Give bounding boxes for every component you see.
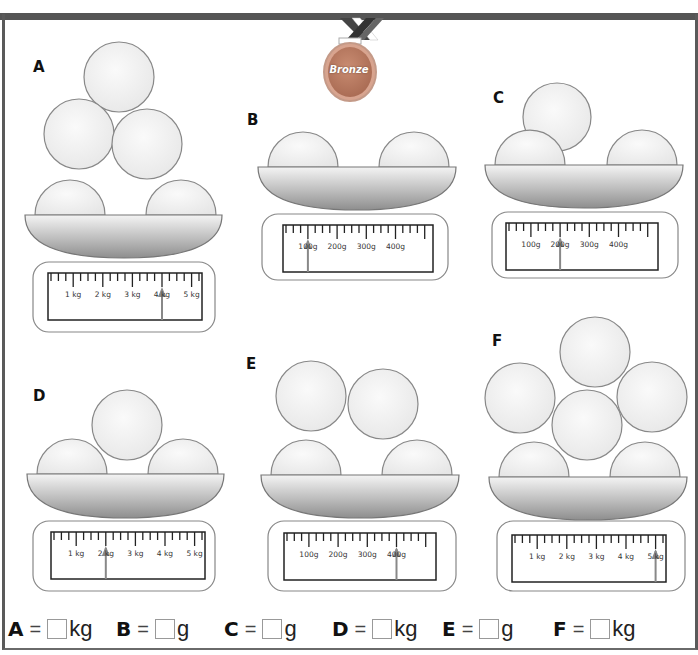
medal-ribbon-icon xyxy=(339,18,384,44)
svg-text:3 kg: 3 kg xyxy=(127,549,143,558)
answer-b: B = g xyxy=(116,616,224,642)
equals-sign: = xyxy=(355,618,367,641)
equals-sign: = xyxy=(245,618,257,641)
svg-text:2 kg: 2 kg xyxy=(95,290,111,299)
answer-d: D = kg xyxy=(332,616,442,642)
answer-f: F = kg xyxy=(553,616,663,642)
answer-e: E = g xyxy=(442,616,553,642)
equals-sign: = xyxy=(462,618,474,641)
panel-c-balls xyxy=(495,83,677,165)
answer-a-label: A xyxy=(8,617,23,641)
equals-sign: = xyxy=(573,618,585,641)
svg-text:1 kg: 1 kg xyxy=(529,552,545,561)
equals-sign: = xyxy=(137,618,149,641)
svg-text:300g: 300g xyxy=(357,242,376,251)
svg-text:300g: 300g xyxy=(580,240,599,249)
panel-a-balls xyxy=(35,42,216,215)
svg-text:100g: 100g xyxy=(521,240,540,249)
answer-f-unit: kg xyxy=(612,616,635,642)
svg-text:5 kg: 5 kg xyxy=(647,552,663,561)
panel-c-bowl xyxy=(485,165,683,208)
panel-d-balls xyxy=(37,390,218,474)
panel-f-balls xyxy=(485,317,687,477)
answer-c-input[interactable] xyxy=(262,619,282,639)
answer-b-unit: g xyxy=(177,616,189,642)
svg-text:200g: 200g xyxy=(329,550,348,559)
badge-label: Bronze xyxy=(324,64,374,75)
panel-b-balls xyxy=(268,132,449,167)
equals-sign: = xyxy=(29,618,41,641)
svg-text:400g: 400g xyxy=(387,550,406,559)
answer-c-label: C xyxy=(224,617,239,641)
panel-f-bowl xyxy=(489,477,687,520)
svg-text:200g: 200g xyxy=(551,240,570,249)
panel-b-label: B xyxy=(247,111,258,129)
answer-e-label: E xyxy=(442,617,456,641)
answer-a: A = kg xyxy=(8,616,116,642)
svg-text:300g: 300g xyxy=(358,550,377,559)
svg-text:4 kg: 4 kg xyxy=(154,290,170,299)
panel-a-bowl xyxy=(25,215,222,258)
svg-text:400g: 400g xyxy=(386,242,405,251)
panel-b-scale xyxy=(262,214,448,280)
svg-text:2 kg: 2 kg xyxy=(559,552,575,561)
svg-text:2 kg: 2 kg xyxy=(98,549,114,558)
answer-e-unit: g xyxy=(501,616,513,642)
answer-row: A = kg B = g C = g D = kg E = g F = kg xyxy=(8,612,688,646)
svg-text:100g: 100g xyxy=(298,242,317,251)
svg-text:1 kg: 1 kg xyxy=(65,290,81,299)
svg-text:400g: 400g xyxy=(609,240,628,249)
svg-text:5 kg: 5 kg xyxy=(186,549,202,558)
answer-e-input[interactable] xyxy=(479,619,499,639)
answer-f-label: F xyxy=(553,617,567,641)
svg-text:1 kg: 1 kg xyxy=(68,549,84,558)
panel-a-label: A xyxy=(33,58,45,76)
panel-b-bowl xyxy=(258,167,456,210)
answer-c-unit: g xyxy=(284,616,296,642)
answer-a-input[interactable] xyxy=(47,619,67,639)
panel-d-label: D xyxy=(33,387,45,405)
panel-e-label: E xyxy=(246,355,256,373)
panel-e-balls xyxy=(271,361,452,475)
answer-d-unit: kg xyxy=(394,616,417,642)
answer-a-unit: kg xyxy=(69,616,92,642)
answer-d-label: D xyxy=(332,617,349,641)
svg-text:5 kg: 5 kg xyxy=(183,290,199,299)
answer-b-input[interactable] xyxy=(155,619,175,639)
answer-d-input[interactable] xyxy=(372,619,392,639)
answer-c: C = g xyxy=(224,616,332,642)
panel-d-bowl xyxy=(27,474,224,518)
panel-f-label: F xyxy=(492,332,502,350)
svg-text:3 kg: 3 kg xyxy=(124,290,140,299)
answer-b-label: B xyxy=(116,617,131,641)
panel-e-bowl xyxy=(261,475,459,518)
svg-text:100g: 100g xyxy=(299,550,318,559)
svg-text:4 kg: 4 kg xyxy=(157,549,173,558)
worksheet-illustration: 1 kg2 kg3 kg4 kg5 kg100g200g300g400g100g… xyxy=(0,0,698,655)
svg-text:200g: 200g xyxy=(328,242,347,251)
svg-text:3 kg: 3 kg xyxy=(588,552,604,561)
answer-f-input[interactable] xyxy=(590,619,610,639)
svg-text:4 kg: 4 kg xyxy=(618,552,634,561)
panel-c-label: C xyxy=(493,89,504,107)
